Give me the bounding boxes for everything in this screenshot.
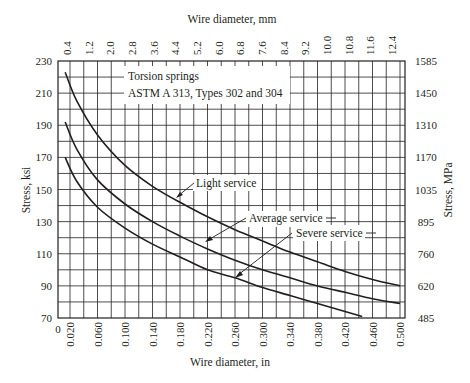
y2-tick-label: 1170	[415, 151, 437, 163]
x-tick-label: 0.140	[147, 322, 159, 347]
y-tick-label: 190	[36, 119, 53, 131]
x-tick-label: 0.380	[312, 322, 324, 347]
left-axis-ticks: 2302101901701501301109070	[36, 55, 53, 324]
x2-tick-label: 12.4	[386, 35, 398, 55]
y-tick-label: 170	[36, 151, 53, 163]
y2-tick-label: 485	[418, 312, 435, 324]
bottom-axis-ticks: 0.0200.0600.1000.1400.1800.2200.2600.300…	[64, 322, 406, 347]
x2-tick-label: 11.6	[364, 36, 376, 55]
x-tick-label: 0.340	[284, 322, 296, 347]
x2-tick-label: 6.8	[234, 41, 246, 55]
y-tick-label: 90	[41, 280, 53, 292]
top-axis-ticks: 0.41.22.02.83.64.45.26.06.87.68.49.210.0…	[61, 35, 398, 55]
x2-tick-label: 5.2	[191, 41, 203, 55]
y2-tick-label: 620	[418, 280, 435, 292]
x-tick-label: 0.300	[257, 322, 269, 347]
x2-tick-label: 4.4	[169, 41, 181, 55]
y-tick-label: 210	[36, 87, 53, 99]
x2-tick-label: 9.2	[299, 41, 311, 55]
x-origin-label: 0	[55, 323, 61, 335]
x2-tick-label: 2.8	[126, 41, 138, 55]
annotation-light-label: Light service	[196, 177, 256, 190]
y-tick-label: 110	[36, 248, 53, 260]
chart-title: Torsion springs	[128, 70, 200, 83]
y-tick-label: 70	[41, 312, 53, 324]
y-tick-label: 150	[36, 184, 53, 196]
x2-tick-label: 1.2	[83, 41, 95, 55]
x2-tick-label: 10.8	[343, 35, 355, 55]
x-axis-title: Wire diameter, in	[190, 356, 270, 369]
top-axis-title: Wire diameter, mm	[188, 13, 277, 26]
stress-vs-wire-diameter-chart: Torsion springs ASTM A 313, Types 302 an…	[0, 0, 470, 383]
x-tick-label: 0.460	[367, 322, 379, 347]
x2-tick-label: 6.0	[213, 41, 225, 55]
x-tick-label: 0.020	[64, 322, 76, 347]
annotation-average-label: Average service	[249, 212, 323, 225]
y-axis-title: Stress, ksi	[20, 167, 33, 214]
x2-tick-label: 10.0	[321, 35, 333, 55]
right-axis-ticks: 15851450131011701035895760620485	[415, 55, 438, 324]
x2-tick-label: 0.4	[61, 41, 73, 55]
x-tick-label: 0.420	[339, 322, 351, 347]
y-tick-label: 230	[36, 55, 53, 67]
y2-tick-label: 1585	[415, 55, 438, 67]
x-tick-label: 0.060	[92, 322, 104, 347]
annotation-severe-label: Severe service	[296, 227, 363, 239]
x2-tick-label: 7.6	[256, 41, 268, 55]
annotation-light: Light service	[176, 175, 261, 198]
y-tick-label: 130	[36, 216, 53, 228]
y2-tick-label: 1450	[415, 87, 438, 99]
x2-tick-label: 2.0	[104, 41, 116, 55]
y2-tick-label: 895	[418, 216, 435, 228]
x2-tick-label: 3.6	[148, 41, 160, 55]
x-tick-label: 0.500	[394, 322, 406, 347]
x-tick-label: 0.100	[119, 322, 131, 347]
y2-tick-label: 760	[418, 248, 435, 260]
y2-tick-label: 1310	[415, 119, 438, 131]
y2-tick-label: 1035	[415, 184, 438, 196]
chart-subtitle: ASTM A 313, Types 302 and 304	[128, 87, 283, 100]
x2-tick-label: 8.4	[278, 41, 290, 55]
x-tick-label: 0.260	[229, 322, 241, 347]
x-tick-label: 0.220	[202, 322, 214, 347]
x-tick-label: 0.180	[174, 322, 186, 347]
y2-axis-title: Stress, MPa	[442, 163, 455, 218]
